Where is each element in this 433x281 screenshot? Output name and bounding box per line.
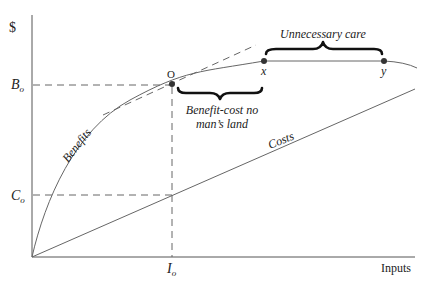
no-mans-land-text-1: Benefit-cost no <box>186 103 258 117</box>
c0-label: Co <box>11 188 25 205</box>
y-axis-label: $ <box>9 20 16 35</box>
unnecessary-care-brace <box>266 42 382 54</box>
no-mans-land-brace <box>178 88 262 99</box>
point-y-label: y <box>380 64 387 78</box>
b0-label: Bo <box>11 77 25 94</box>
point-x-label: x <box>260 64 267 78</box>
unnecessary-care-text: Unnecessary care <box>280 27 367 41</box>
i0-label: Io <box>166 261 177 278</box>
x-axis-label: Inputs <box>381 261 411 275</box>
benefit-cost-diagram: $ Inputs Bo Co Io Benefits Costs O x y B… <box>0 0 433 281</box>
benefits-curve <box>32 61 417 257</box>
benefits-label: Benefits <box>59 126 94 165</box>
costs-label: Costs <box>266 129 296 152</box>
optimum-label: O <box>167 68 175 80</box>
optimum-point <box>169 81 175 87</box>
no-mans-land-text-2: man’s land <box>196 117 249 131</box>
